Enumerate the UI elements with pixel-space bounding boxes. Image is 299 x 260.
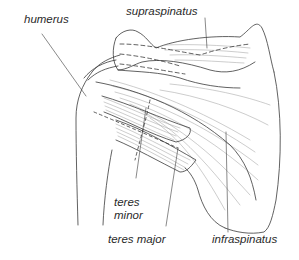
label-humerus: humerus	[24, 13, 69, 26]
label-infraspinatus: infraspinatus	[212, 233, 277, 246]
humerus-head-arc	[84, 60, 116, 78]
infraspinatus-border	[96, 82, 256, 200]
humerus-head-arc-2	[88, 66, 118, 80]
scapula-inferior-angle	[185, 168, 225, 228]
label-teres-major: teres major	[108, 233, 166, 246]
spine-dash-2	[120, 64, 185, 74]
infraspinatus-leader	[226, 132, 228, 232]
label-teres-minor-line2: minor	[114, 209, 143, 222]
label-teres-minor: teres minor	[114, 196, 143, 222]
humerus-leader	[42, 34, 86, 96]
label-supraspinatus: supraspinatus	[126, 5, 198, 18]
teres-major-dash	[135, 100, 150, 160]
teres-minor-leader	[136, 108, 146, 178]
supraspinatus-leader	[205, 18, 207, 48]
scapular-spine-dash	[120, 54, 180, 66]
scapula-medial-border	[225, 72, 280, 233]
humerus-inner-line	[103, 150, 112, 225]
teres-major-leader	[166, 148, 178, 226]
label-teres-minor-line1: teres	[114, 196, 143, 209]
shoulder-anatomy-illustration	[0, 0, 299, 260]
